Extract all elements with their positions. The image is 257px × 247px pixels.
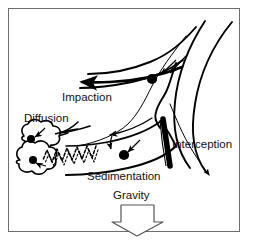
particle-diffusion-lower [29,156,37,164]
particle-impaction [147,74,157,84]
deposition-mechanisms-diagram: Impaction Diffusion Interception Sedimen… [0,0,257,247]
sedimentation-arrow-a [128,140,140,152]
figure-page: Impaction Diffusion Interception Sedimen… [0,0,257,247]
label-interception: Interception [172,138,232,150]
label-gravity: Gravity [113,189,150,201]
sedimentation-group [110,136,140,160]
label-impaction: Impaction [62,91,112,103]
particle-diffusion-upper [27,135,35,143]
airway-wall-lower-branch-top [66,121,161,146]
gravity-block-arrow-shape [112,205,163,236]
gravity-arrow [112,205,163,236]
alveolar-sacs [16,120,78,175]
label-sedimentation: Sedimentation [87,170,161,182]
elongated-fiber [163,119,170,166]
label-diffusion: Diffusion [24,112,69,124]
particle-sedimentation [119,150,129,160]
sedimentation-arrow-b [110,136,112,149]
interception-group [160,119,170,166]
